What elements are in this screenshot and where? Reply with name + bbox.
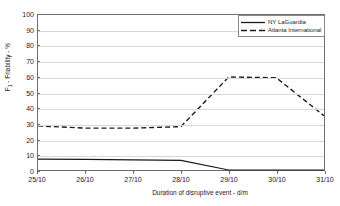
x-axis-tickmark [133, 171, 134, 174]
y-axis-tickmark [37, 45, 40, 46]
y-axis-tick-label: 40 [4, 105, 34, 112]
dashed-line-icon [241, 27, 265, 34]
gridline [38, 125, 324, 126]
x-axis-tick-label: 31/10 [305, 176, 340, 183]
friability-line-chart: F1 - Friability - % 01020304050607080901… [0, 0, 340, 206]
x-axis-tickmark [277, 171, 278, 174]
series-line-2 [38, 77, 324, 128]
gridline [38, 46, 324, 47]
y-axis-tick-label: 90 [4, 26, 34, 33]
x-axis-tick-label: 30/10 [257, 176, 297, 183]
y-axis-tickmark [37, 155, 40, 156]
y-axis-tick-label: 70 [4, 58, 34, 65]
x-axis-tickmark [181, 171, 182, 174]
plot-area [37, 14, 325, 171]
y-axis-tick-label: 30 [4, 120, 34, 127]
series-lines [38, 15, 324, 170]
y-axis-tick-label: 0 [4, 168, 34, 175]
y-axis-tickmark [37, 108, 40, 109]
y-axis-tickmark [37, 124, 40, 125]
x-axis-tick-label: 25/10 [17, 176, 57, 183]
gridline [38, 141, 324, 142]
y-axis-tick-label: 10 [4, 152, 34, 159]
gridline [38, 109, 324, 110]
y-axis-tickmark [37, 30, 40, 31]
x-axis-title: Duration of disruptive event - d/m [0, 190, 340, 197]
x-axis-tick-label: 26/10 [65, 176, 105, 183]
legend-item-label: NY LaGuardia [268, 19, 306, 25]
y-axis-tickmark [37, 61, 40, 62]
x-axis-tick-label: 29/10 [209, 176, 249, 183]
legend-item[interactable]: NY LaGuardia [241, 18, 321, 26]
x-axis-tickmark [37, 171, 38, 174]
gridline [38, 94, 324, 95]
y-axis-tick-label: 100 [4, 11, 34, 18]
x-axis-tick-label: 28/10 [161, 176, 201, 183]
series-line-1 [38, 159, 324, 170]
y-axis-tick-label: 80 [4, 42, 34, 49]
x-axis-tickmark [229, 171, 230, 174]
y-axis-tickmark [37, 14, 40, 15]
y-axis-tickmark [37, 93, 40, 94]
y-axis-tickmark [37, 77, 40, 78]
x-axis-tickmark [85, 171, 86, 174]
y-axis-tick-labels: 0102030405060708090100 [0, 14, 34, 171]
x-axis-tickmark [325, 171, 326, 174]
legend-item[interactable]: Atlanta International [241, 26, 321, 34]
gridline [38, 156, 324, 157]
gridline [38, 78, 324, 79]
x-axis-tick-label: 27/10 [113, 176, 153, 183]
chart-legend: NY LaGuardiaAtlanta International [238, 15, 325, 37]
gridline [38, 62, 324, 63]
y-axis-tick-label: 50 [4, 89, 34, 96]
y-axis-tickmark [37, 140, 40, 141]
legend-item-label: Atlanta International [268, 27, 321, 33]
y-axis-tick-label: 60 [4, 73, 34, 80]
solid-line-icon [241, 19, 265, 26]
y-axis-tick-label: 20 [4, 136, 34, 143]
